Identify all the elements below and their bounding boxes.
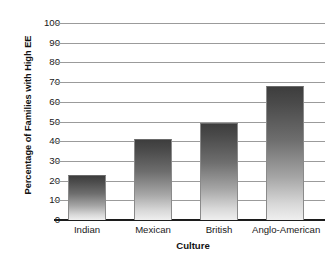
x-axis-tick-label: British — [186, 224, 252, 236]
bar — [68, 175, 106, 220]
y-axis-tick-mark — [54, 200, 61, 201]
y-axis-tick-mark — [54, 82, 61, 83]
y-axis-tick-mark — [54, 23, 61, 24]
y-axis-tick-mark — [54, 102, 61, 103]
x-axis-tick-labels: IndianMexicanBritishAnglo-American — [61, 224, 325, 240]
y-axis-tick-mark — [54, 122, 61, 123]
y-axis-tick-mark — [54, 219, 61, 221]
bars-group — [61, 23, 325, 220]
x-axis-tick-label: Anglo-American — [252, 224, 318, 236]
plot-area — [61, 23, 325, 220]
x-axis-title: Culture — [61, 240, 325, 251]
x-axis-tick-label: Mexican — [120, 224, 186, 236]
y-axis-tick-mark — [54, 62, 61, 63]
bar — [134, 139, 172, 220]
bar — [200, 123, 238, 220]
bar-chart: Percentage of Families with High EE 1009… — [0, 0, 335, 263]
bar — [266, 86, 304, 220]
y-axis-tick-mark — [54, 141, 61, 142]
y-axis-tick-mark — [54, 43, 61, 44]
y-axis-tick-mark — [54, 161, 61, 162]
y-axis-tick-labels: 1009080706050403020100 — [0, 0, 60, 263]
y-axis-tick-mark — [54, 181, 61, 182]
x-axis-tick-label: Indian — [54, 224, 120, 236]
